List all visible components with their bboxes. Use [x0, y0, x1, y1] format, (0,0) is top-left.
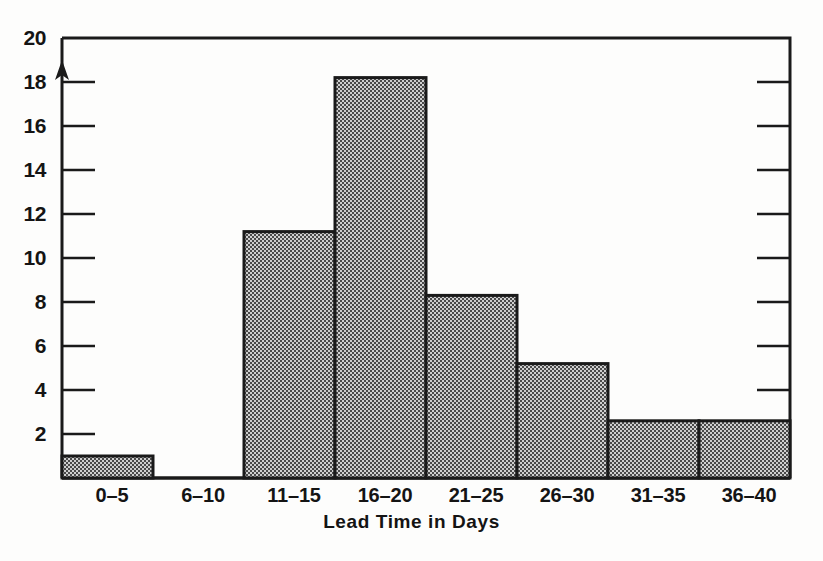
x-tick-label-4: 21–25 — [426, 484, 526, 507]
y-tick-label-2: 2 — [2, 422, 46, 446]
y-tick-label-12: 12 — [2, 202, 46, 226]
x-tick-label-7: 36–40 — [699, 484, 799, 507]
x-axis-title: Lead Time in Days — [0, 511, 823, 533]
histogram-bar — [244, 232, 335, 478]
y-tick-label-6: 6 — [2, 334, 46, 358]
x-tick-label-2: 11–15 — [244, 484, 344, 507]
histogram-bar — [517, 364, 608, 478]
histogram-bars — [62, 78, 790, 478]
histogram-plot-area — [0, 0, 823, 561]
x-tick-label-0: 0–5 — [62, 484, 162, 507]
y-tick-label-4: 4 — [2, 378, 46, 402]
histogram-bar — [608, 421, 699, 478]
y-tick-label-8: 8 — [2, 290, 46, 314]
y-tick-label-10: 10 — [2, 246, 46, 270]
x-tick-label-1: 6–10 — [153, 484, 253, 507]
x-tick-label-3: 16–20 — [335, 484, 435, 507]
x-tick-label-5: 26–30 — [517, 484, 617, 507]
y-tick-label-16: 16 — [2, 114, 46, 138]
y-tick-label-20: 20 — [2, 26, 46, 50]
histogram-figure: 20 18 16 14 12 10 8 6 4 2 0–5 6–10 11–15… — [0, 0, 823, 561]
histogram-bar — [62, 456, 153, 478]
y-tick-label-14: 14 — [2, 158, 46, 182]
y-axis-ticks-right — [757, 82, 790, 434]
histogram-bar — [426, 295, 517, 478]
histogram-bar — [335, 78, 426, 478]
y-axis-ticks-left — [62, 82, 95, 434]
histogram-bar — [699, 421, 790, 478]
x-tick-label-6: 31–35 — [608, 484, 708, 507]
y-tick-label-18: 18 — [2, 70, 46, 94]
